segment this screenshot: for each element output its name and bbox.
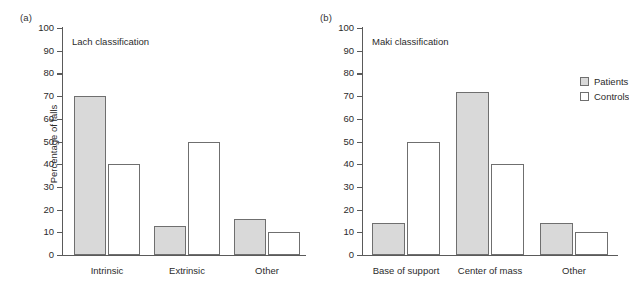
panel-b: (b) Maki classification 0102030405060708…: [300, 0, 628, 287]
bar-patients-extrinsic: [154, 226, 186, 256]
panel-b-plot-area: Maki classification 01020304050607080901…: [362, 28, 612, 255]
y-tick-label: 100: [338, 23, 354, 33]
y-tick-label: 70: [343, 91, 354, 101]
bar-controls-other: [575, 232, 608, 255]
y-tick-mark: [57, 28, 62, 29]
bar-controls-other: [268, 232, 300, 255]
y-tick-mark: [57, 232, 62, 233]
bar-patients-intrinsic: [74, 96, 106, 255]
y-tick-label: 50: [343, 137, 354, 147]
panel-b-tag: (b): [320, 12, 332, 23]
y-tick-label: 10: [43, 228, 54, 238]
y-tick-label: 30: [43, 182, 54, 192]
y-tick-label: 40: [343, 159, 354, 169]
y-tick-mark: [357, 119, 362, 120]
bar-controls-extrinsic: [188, 142, 220, 256]
y-tick-mark: [57, 119, 62, 120]
legend: Patients Controls: [580, 76, 629, 102]
y-tick-label: 20: [43, 205, 54, 215]
panel-a-title: Lach classification: [72, 36, 149, 47]
bar-controls-intrinsic: [108, 164, 140, 255]
y-tick-mark: [357, 255, 362, 256]
y-tick-mark: [357, 96, 362, 97]
panel-b-x-axis-line: [362, 255, 618, 256]
y-tick-mark: [357, 232, 362, 233]
y-tick-label: 30: [343, 182, 354, 192]
legend-label-patients: Patients: [594, 76, 628, 87]
y-tick-label: 0: [349, 250, 354, 260]
y-tick-label: 100: [38, 23, 54, 33]
filled-gray-square-icon: [580, 77, 589, 86]
y-tick-mark: [57, 210, 62, 211]
bar-patients-other: [540, 223, 573, 255]
y-tick-label: 50: [43, 137, 54, 147]
panel-b-title: Maki classification: [372, 36, 449, 47]
panel-a-plot-area: Lach classification 01020304050607080901…: [62, 28, 300, 255]
y-tick-label: 80: [43, 69, 54, 79]
y-tick-label: 40: [43, 159, 54, 169]
y-tick-label: 60: [343, 114, 354, 124]
bar-patients-other: [234, 219, 266, 255]
y-tick-mark: [57, 73, 62, 74]
x-tick-label: Intrinsic: [91, 265, 124, 276]
y-tick-label: 0: [49, 250, 54, 260]
y-tick-label: 20: [343, 205, 354, 215]
legend-item-controls: Controls: [580, 91, 629, 102]
legend-item-patients: Patients: [580, 76, 629, 87]
y-tick-mark: [57, 255, 62, 256]
x-tick-label: Base of support: [373, 265, 440, 276]
y-tick-mark: [57, 96, 62, 97]
bar-patients-center-of-mass: [456, 92, 489, 255]
panel-b-y-axis-line: [362, 27, 363, 256]
bar-controls-center-of-mass: [491, 164, 524, 255]
panel-a-x-axis-line: [62, 255, 306, 256]
y-tick-mark: [357, 73, 362, 74]
y-tick-label: 70: [43, 91, 54, 101]
y-tick-mark: [57, 164, 62, 165]
x-tick-label: Other: [255, 265, 279, 276]
y-tick-label: 60: [43, 114, 54, 124]
y-tick-mark: [357, 210, 362, 211]
y-tick-mark: [357, 28, 362, 29]
panel-a-y-axis-line: [62, 27, 63, 256]
x-tick-label: Center of mass: [458, 265, 522, 276]
y-tick-mark: [357, 187, 362, 188]
y-tick-mark: [357, 164, 362, 165]
y-tick-label: 90: [343, 46, 354, 56]
y-tick-mark: [57, 51, 62, 52]
y-tick-mark: [57, 187, 62, 188]
y-tick-mark: [357, 51, 362, 52]
y-tick-mark: [357, 142, 362, 143]
x-tick-label: Other: [562, 265, 586, 276]
bar-controls-base-of-support: [407, 142, 440, 256]
y-tick-mark: [57, 142, 62, 143]
y-tick-label: 10: [343, 228, 354, 238]
empty-white-square-icon: [580, 92, 589, 101]
legend-label-controls: Controls: [594, 91, 629, 102]
panel-a: (a) Percentage of falls Lach classificat…: [0, 0, 314, 287]
bar-patients-base-of-support: [372, 223, 405, 255]
panel-a-tag: (a): [20, 12, 32, 23]
y-tick-label: 90: [43, 46, 54, 56]
x-tick-label: Extrinsic: [169, 265, 205, 276]
y-tick-label: 80: [343, 69, 354, 79]
